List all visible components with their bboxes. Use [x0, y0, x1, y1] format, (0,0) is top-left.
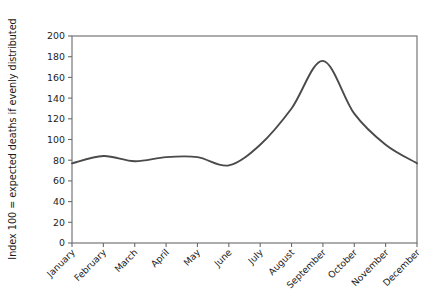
- y-tick-label: 0: [59, 237, 65, 248]
- y-tick-label: 100: [47, 134, 65, 145]
- y-tick-label: 180: [47, 51, 65, 62]
- y-axis-title: Index 100 = expected deaths if evenly di…: [7, 18, 18, 259]
- y-tick-label: 80: [53, 155, 65, 166]
- y-tick-label: 140: [47, 93, 65, 104]
- y-tick-label: 60: [53, 175, 65, 186]
- y-tick-label: 160: [47, 72, 65, 83]
- y-tick-label: 40: [53, 196, 65, 207]
- y-tick-label: 120: [47, 113, 65, 124]
- y-tick-label: 20: [53, 217, 65, 228]
- y-tick-label: 200: [47, 30, 65, 41]
- chart-container: 020406080100120140160180200 JanuaryFebru…: [0, 0, 439, 304]
- mortality-seasonality-line-chart: 020406080100120140160180200 JanuaryFebru…: [0, 0, 439, 304]
